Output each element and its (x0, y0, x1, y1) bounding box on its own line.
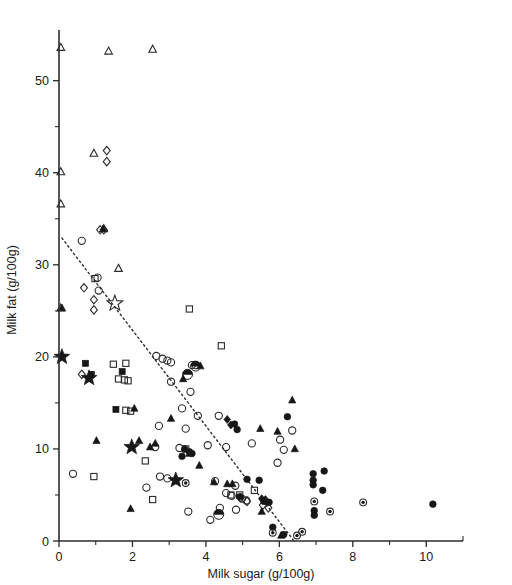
marker-square-open (110, 361, 116, 367)
marker-triangle-open (115, 264, 123, 271)
marker-circle-filled (310, 470, 317, 477)
marker-diamond-open (80, 284, 87, 292)
marker-circle-dot-center (295, 534, 298, 537)
x-tick-label: 6 (276, 550, 283, 564)
marker-square-open (115, 376, 121, 382)
marker-circle-filled (234, 426, 241, 433)
marker-circle-open (182, 425, 189, 432)
marker-circle-open (207, 516, 214, 523)
marker-circle-open (215, 412, 222, 419)
marker-triangle-filled (127, 505, 134, 512)
marker-square-open (123, 360, 129, 366)
marker-circle-open (248, 440, 255, 447)
series-open-triangle (57, 43, 156, 311)
marker-circle-open (280, 446, 287, 453)
marker-circle-open (223, 443, 230, 450)
marker-triangle-filled (291, 445, 298, 452)
marker-circle-open (232, 506, 239, 513)
marker-circle-dot-center (328, 510, 331, 513)
marker-triangle-filled (196, 462, 203, 469)
marker-circle-half-open (214, 514, 224, 519)
marker-circle-dot-center (300, 530, 303, 533)
axes (59, 30, 463, 541)
marker-triangle-filled (152, 439, 159, 446)
marker-star-filled (54, 349, 70, 364)
series-dot-in-circle (182, 480, 366, 539)
x-tick-label: 4 (202, 550, 209, 564)
marker-square-open (91, 473, 97, 479)
marker-circle-filled (284, 413, 291, 420)
marker-diamond-open (103, 157, 110, 165)
marker-square-open (186, 306, 192, 312)
marker-square-filled (119, 369, 125, 375)
series-filled-square (82, 360, 125, 412)
marker-circle-filled (321, 468, 328, 475)
marker-circle-filled (319, 487, 326, 494)
marker-circle-filled (310, 482, 317, 489)
marker-triangle-filled (167, 415, 174, 422)
marker-circle-open (156, 473, 163, 480)
y-tick-label: 40 (35, 166, 49, 180)
trendline-path (62, 238, 294, 541)
marker-circle-open (167, 378, 174, 385)
marker-circle-open (289, 427, 296, 434)
scatter-plot-figure: 0246810 01020304050 Milk sugar (g/100g) … (0, 0, 512, 585)
marker-circle-open (187, 388, 194, 395)
marker-circle-open (155, 422, 162, 429)
marker-triangle-filled (257, 425, 264, 432)
marker-circle-open (159, 355, 166, 362)
marker-circle-filled (189, 450, 196, 457)
marker-circle-open (194, 412, 201, 419)
marker-square-filled (82, 360, 88, 366)
y-tick-label: 0 (42, 535, 49, 549)
series-filled-triangle (58, 225, 298, 538)
x-axis-label: Milk sugar (g/100g) (208, 567, 315, 581)
marker-circle-filled (430, 501, 437, 508)
y-tick-label: 10 (35, 442, 49, 456)
marker-star-filled (168, 472, 184, 487)
marker-circle-filled (236, 494, 243, 501)
marker-circle-dot-center (313, 500, 316, 503)
marker-circle-open (185, 508, 192, 515)
marker-circle-open (178, 405, 185, 412)
marker-triangle-open (149, 45, 157, 52)
series-open-diamond (78, 146, 272, 512)
y-tick-label: 30 (35, 258, 49, 272)
marker-circle-open (143, 484, 150, 491)
marker-diamond-open (103, 146, 110, 154)
marker-triangle-open (90, 149, 98, 156)
marker-triangle-filled (289, 396, 296, 403)
marker-triangle-filled (93, 437, 100, 444)
marker-triangle-open (57, 43, 65, 50)
marker-circle-filled (179, 453, 186, 460)
marker-circle-open (274, 459, 281, 466)
marker-circle-half-filled (183, 369, 193, 374)
marker-diamond-open (90, 296, 97, 304)
marker-circle-filled (311, 512, 318, 519)
marker-triangle-filled (135, 437, 142, 444)
marker-circle-dot-center (361, 501, 364, 504)
marker-circle-open (204, 442, 211, 449)
marker-square-filled (113, 406, 119, 412)
marker-triangle-open (57, 168, 65, 175)
marker-triangle-filled (229, 480, 236, 487)
trendline (62, 238, 294, 541)
data-series-group (54, 43, 436, 538)
x-tick-label: 8 (349, 550, 356, 564)
y-tick-label: 20 (35, 350, 49, 364)
marker-circle-dot-center (184, 481, 187, 484)
x-tick-label: 0 (56, 550, 63, 564)
marker-square-open (218, 343, 224, 349)
y-axis-ticks: 01020304050 (35, 74, 59, 548)
x-tick-label: 10 (419, 550, 433, 564)
series-open-square (91, 275, 258, 502)
marker-triangle-open (105, 47, 113, 54)
x-tick-label: 2 (129, 550, 136, 564)
marker-circle-open (78, 237, 85, 244)
marker-circle-filled (280, 531, 287, 538)
plot-canvas: 0246810 01020304050 Milk sugar (g/100g) … (0, 0, 512, 585)
marker-triangle-filled (258, 508, 265, 515)
marker-triangle-filled (274, 427, 281, 434)
marker-square-open (142, 458, 148, 464)
y-tick-label: 50 (35, 74, 49, 88)
